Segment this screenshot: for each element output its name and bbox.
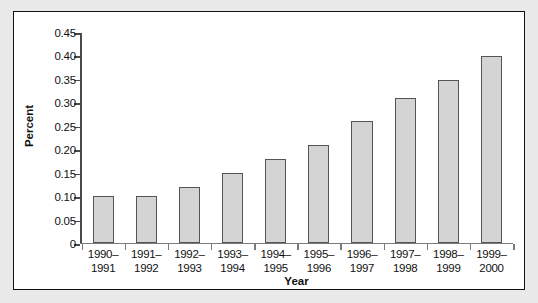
bar-cell [82,33,125,243]
y-axis-tick-label: 0.05 [54,215,76,227]
figure-panel: 00.050.100.150.200.250.300.350.400.45 19… [13,11,525,290]
bar-cell [340,33,383,243]
bar [351,121,372,242]
x-axis-tick-label-line: 1993– [211,248,254,262]
bar-cell [254,33,297,243]
x-axis-tick-label: 1996–1997 [340,248,383,275]
x-axis-tick-label-line: 1994– [254,248,297,262]
x-axis-tick-label-line: 1992– [168,248,211,262]
x-axis-tick-label-line: 1997– [384,248,427,262]
bar-cell [211,33,254,243]
y-axis-tick-label: 0.15 [54,168,76,180]
bar [136,196,157,243]
x-axis-tick-label-line: 1999 [427,262,470,276]
x-axis-tick-label-line: 1996– [340,248,383,262]
bar [308,145,329,243]
y-axis-tick-label: 0.35 [54,74,76,86]
bar-cell [297,33,340,243]
x-axis-tick-label-line: 2000 [470,262,513,276]
x-axis-tick-label-line: 1992 [125,262,168,276]
chart-screenshot: 00.050.100.150.200.250.300.350.400.45 19… [0,0,538,303]
bar-cell [427,33,470,243]
x-axis-tick-label-line: 1995 [254,262,297,276]
x-axis-tick-mark [513,244,515,250]
bar [481,56,502,242]
x-axis-tick-label-line: 1998– [427,248,470,262]
y-axis-tick-label: 0 [70,238,76,250]
x-axis-tick-label-line: 1991 [82,262,125,276]
x-axis-tick-label: 1995–1996 [297,248,340,275]
bar [222,173,243,243]
x-axis-tick-label: 1997–1998 [384,248,427,275]
x-axis-tick-label-line: 1993 [168,262,211,276]
x-axis-title: Year [80,275,513,287]
bar-cell [125,33,168,243]
plot-area: 00.050.100.150.200.250.300.350.400.45 [80,33,513,244]
x-axis-tick-label-line: 1996 [297,262,340,276]
x-axis-tick-label: 1999–2000 [470,248,513,275]
x-axis-tick-label-line: 1991– [125,248,168,262]
bar-cell [470,33,513,243]
x-axis-tick-label: 1994–1995 [254,248,297,275]
bar-cell [384,33,427,243]
x-axis-tick-labels: 1990–19911991–19921992–19931993–19941994… [82,248,514,275]
y-axis-title: Percent [23,105,35,147]
x-axis-tick-label: 1993–1994 [211,248,254,275]
x-axis-tick-label: 1990–1991 [82,248,125,275]
x-axis-tick-label-line: 1997 [340,262,383,276]
bar-series [82,33,514,243]
y-axis-tick-label: 0.40 [54,50,76,62]
bar-cell [168,33,211,243]
bar [395,98,416,242]
y-axis-tick-label: 0.20 [54,144,76,156]
x-axis-tick-label-line: 1994 [211,262,254,276]
x-axis-tick-label-line: 1995– [297,248,340,262]
x-axis-tick-label: 1998–1999 [427,248,470,275]
bar [93,196,114,243]
y-axis-tick-label: 0.10 [54,191,76,203]
x-axis-tick-label: 1991–1992 [125,248,168,275]
y-axis-tick-label: 0.45 [54,27,76,39]
x-axis-tick-label-line: 1999– [470,248,513,262]
bar [179,187,200,243]
bar [438,80,459,243]
bar [265,159,286,243]
x-axis-tick-label: 1992–1993 [168,248,211,275]
y-axis-tick-label: 0.25 [54,121,76,133]
x-axis-tick-label-line: 1990– [82,248,125,262]
x-axis-tick-label-line: 1998 [384,262,427,276]
y-axis-tick-label: 0.30 [54,97,76,109]
